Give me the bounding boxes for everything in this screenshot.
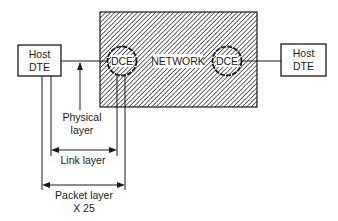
right-dce-label: DCE [216,55,238,67]
physical-layer-label-line2: layer [71,124,94,136]
network-label: NETWORK [151,55,205,67]
right-dce: DCE [213,47,242,76]
packet-layer-label-line1: Packet layer [55,189,113,201]
x25-layers-diagram: NETWORK Host DTE Host DTE DCE DCE Physic… [0,0,338,221]
packet-layer-label-line2: X 25 [73,202,95,214]
left-host-dte: Host DTE [18,45,61,76]
right-host-label-line2: DTE [293,60,314,72]
right-host-label-line1: Host [293,47,315,59]
physical-layer-label-line1: Physical [62,111,101,123]
left-host-label-line2: DTE [29,61,50,73]
link-layer-label: Link layer [61,154,106,166]
left-host-label-line1: Host [29,48,51,60]
left-dce-label: DCE [111,55,133,67]
left-dce: DCE [108,47,137,76]
right-host-dte: Host DTE [281,44,326,76]
